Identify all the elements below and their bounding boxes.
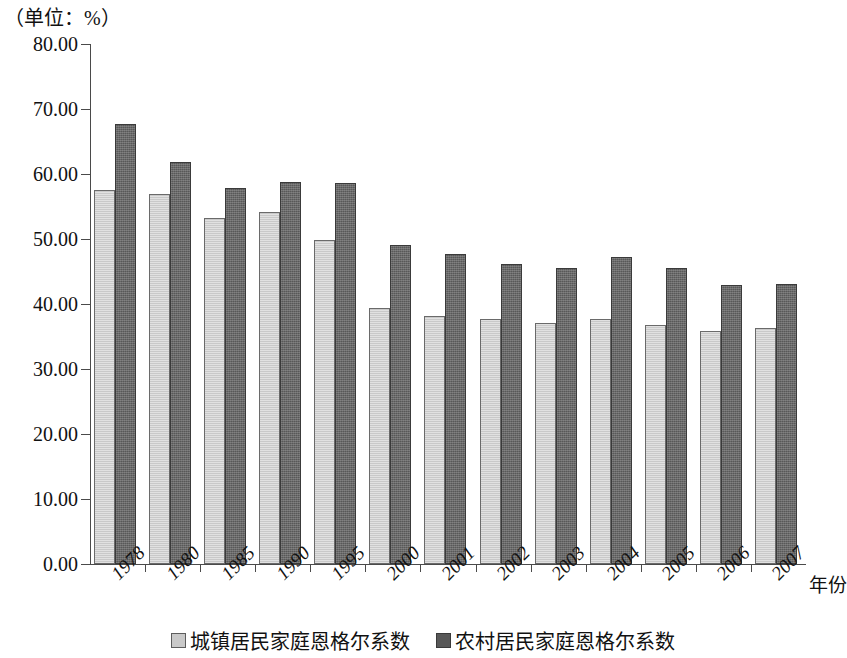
x-axis-tick-labels: 1978198019851990199520002001200220032004… — [90, 569, 806, 629]
bar-urban — [590, 319, 611, 564]
y-axis-tick — [81, 369, 90, 370]
y-axis-tick — [81, 174, 90, 175]
y-axis-tick-label: 40.00 — [33, 293, 78, 316]
y-axis-tick — [81, 109, 90, 110]
y-axis-tick-label: 80.00 — [33, 33, 78, 56]
bar-rural — [556, 268, 577, 564]
bar-urban — [700, 331, 721, 564]
bar-group — [696, 44, 751, 564]
bar-urban — [204, 218, 225, 564]
unit-caption: （单位：%） — [4, 2, 121, 31]
y-axis-tick-label: 20.00 — [33, 423, 78, 446]
y-axis-tick — [81, 239, 90, 240]
bar-group — [145, 44, 200, 564]
bar-urban — [424, 316, 445, 564]
bar-rural — [501, 264, 522, 564]
y-axis-tick-label: 50.00 — [33, 228, 78, 251]
y-axis-tick-label: 0.00 — [43, 553, 78, 576]
bar-urban — [369, 308, 390, 564]
legend-label: 农村居民家庭恩格尔系数 — [455, 626, 675, 655]
bar-group — [90, 44, 145, 564]
legend-item-rural[interactable]: 农村居民家庭恩格尔系数 — [436, 626, 675, 655]
bar-urban — [480, 319, 501, 564]
bar-groups — [90, 44, 806, 565]
bar-urban — [314, 240, 335, 564]
bar-rural — [611, 257, 632, 564]
bar-group — [586, 44, 641, 564]
legend-swatch-icon — [436, 633, 451, 648]
bar-rural — [445, 254, 466, 564]
y-axis-tick — [81, 434, 90, 435]
plot-area: 80.0070.0060.0050.0040.0030.0020.0010.00… — [90, 44, 806, 565]
bar-urban — [149, 194, 170, 564]
bar-group — [476, 44, 531, 564]
bar-rural — [666, 268, 687, 564]
bar-urban — [259, 212, 280, 564]
bar-group — [531, 44, 586, 564]
bar-rural — [335, 183, 356, 564]
y-axis-tick — [81, 44, 90, 45]
legend-label: 城镇居民家庭恩格尔系数 — [190, 626, 410, 655]
x-axis-title: 年份 — [809, 570, 847, 597]
bar-rural — [225, 188, 246, 564]
bar-group — [200, 44, 255, 564]
bar-group — [641, 44, 696, 564]
bar-urban — [645, 325, 666, 564]
y-axis-tick — [81, 499, 90, 500]
legend-item-urban[interactable]: 城镇居民家庭恩格尔系数 — [171, 626, 410, 655]
bar-urban — [94, 190, 115, 564]
bar-rural — [721, 285, 742, 565]
bar-rural — [115, 124, 136, 564]
bar-group — [255, 44, 310, 564]
legend-swatch-icon — [171, 633, 186, 648]
y-axis-tick — [81, 304, 90, 305]
y-axis-tick-label: 30.00 — [33, 358, 78, 381]
y-axis-tick-label: 60.00 — [33, 163, 78, 186]
bar-rural — [390, 245, 411, 564]
chart-legend: 城镇居民家庭恩格尔系数农村居民家庭恩格尔系数 — [0, 626, 846, 655]
bar-group — [420, 44, 475, 564]
bar-rural — [170, 162, 191, 564]
bar-urban — [535, 323, 556, 564]
bar-group — [751, 44, 806, 564]
y-axis-tick-label: 70.00 — [33, 98, 78, 121]
bar-urban — [755, 328, 776, 564]
bar-group — [310, 44, 365, 564]
bar-group — [365, 44, 420, 564]
bar-rural — [776, 284, 797, 564]
y-axis-tick — [81, 564, 90, 565]
bar-rural — [280, 182, 301, 564]
y-axis-tick-label: 10.00 — [33, 488, 78, 511]
